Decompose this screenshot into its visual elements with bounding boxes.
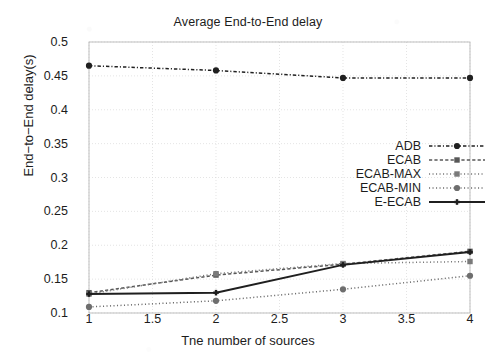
legend-item-ecab: ECAB	[336, 153, 486, 167]
data-point-marker	[456, 199, 458, 205]
legend-item-e-ecab: E-ECAB	[336, 195, 486, 209]
data-point-marker	[86, 304, 92, 310]
legend-label: ADB	[336, 139, 428, 153]
data-point-marker	[340, 75, 346, 81]
data-point-marker	[467, 259, 472, 264]
legend-key-adb	[428, 140, 486, 152]
legend-label: ECAB-MIN	[336, 181, 428, 195]
legend-item-adb: ADB	[336, 139, 486, 153]
data-point-marker	[340, 286, 346, 292]
legend-item-ecab-min: ECAB-MIN	[336, 181, 486, 195]
data-point-marker	[454, 185, 460, 191]
data-point-marker	[467, 273, 473, 279]
data-point-marker	[213, 271, 218, 276]
legend-key-ecab-max	[428, 168, 486, 180]
data-point-marker	[454, 143, 460, 149]
legend-label: ECAB	[336, 153, 428, 167]
data-point-marker	[213, 67, 219, 73]
data-point-marker	[467, 75, 473, 81]
data-point-marker	[215, 290, 217, 296]
data-point-marker	[454, 157, 459, 162]
legend-key-e-ecab	[428, 196, 486, 208]
legend-label: ECAB-MAX	[336, 167, 428, 181]
data-point-marker	[454, 171, 459, 176]
chart-figure: Average End-to-End delay End−to−End dela…	[0, 0, 496, 364]
legend-key-ecab-min	[428, 182, 486, 194]
legend-item-ecab-max: ECAB-MAX	[336, 167, 486, 181]
legend-label: E-ECAB	[336, 195, 428, 209]
data-point-marker	[86, 63, 92, 69]
legend-key-ecab	[428, 154, 486, 166]
chart-legend: ADBECABECAB-MAXECAB-MINE-ECAB	[336, 139, 486, 209]
data-point-marker	[213, 298, 219, 304]
data-point-marker	[342, 262, 344, 268]
data-point-marker	[469, 249, 471, 255]
data-point-marker	[88, 291, 90, 297]
